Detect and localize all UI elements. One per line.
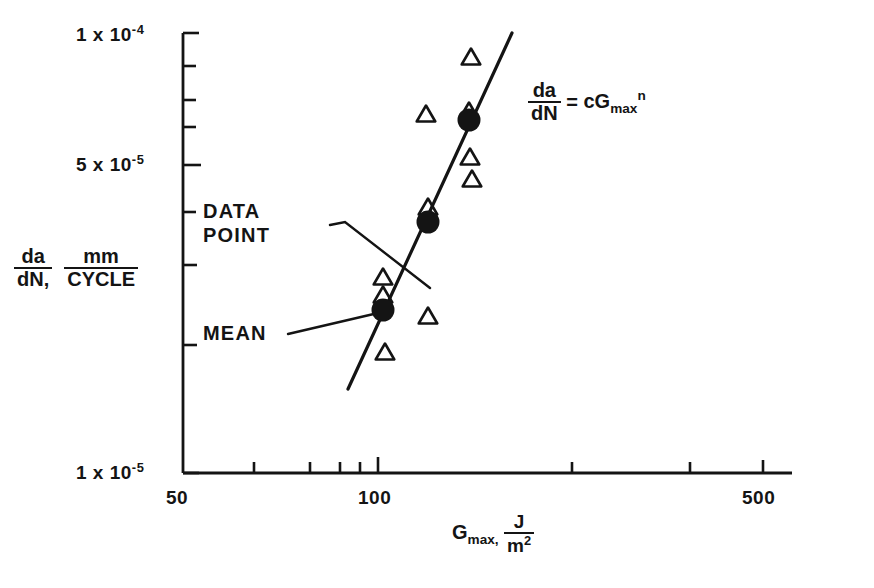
y-axis-ticks	[183, 33, 201, 473]
equation-lhs-den: dN	[528, 103, 561, 124]
y-tick-label-5e-5: 5 x 10-5	[76, 152, 144, 176]
data-point-triangle	[462, 49, 481, 65]
y-tick-mantissa: 1 x 10	[76, 462, 132, 483]
equation-lhs-num: da	[528, 80, 561, 103]
x-axis-title-unit-num: J	[504, 512, 534, 534]
y-tick-exponent: -5	[132, 460, 144, 475]
equation-rhs-coefficient: c	[583, 90, 594, 112]
y-axis-title-rate-den: dN,	[14, 269, 52, 290]
mean-circle	[458, 109, 481, 132]
power-law-equation: da dN = cGmaxn	[528, 80, 646, 124]
data-point-triangle	[417, 106, 436, 122]
y-tick-exponent: -5	[132, 152, 144, 167]
x-axis-title-unit-fraction: J m2	[504, 512, 534, 556]
x-axis-title-subscript: max,	[468, 532, 499, 547]
data-point-annotation-line1: DATA	[203, 199, 270, 223]
x-tick-label-100: 100	[358, 487, 391, 509]
x-axis-title-base: G	[452, 521, 468, 543]
y-tick-mantissa: 5 x 10	[76, 154, 132, 175]
x-axis-title-unit-den-base: m	[507, 535, 524, 556]
y-tick-mantissa: 1 x 10	[76, 24, 132, 45]
y-axis-title-unit-fraction: mm CYCLE	[64, 246, 138, 290]
mean-leader	[288, 313, 378, 334]
mean-circle	[372, 299, 395, 322]
y-axis-title-unit-den: CYCLE	[64, 269, 138, 290]
x-tick-label-50: 50	[166, 487, 188, 509]
data-point-triangle	[419, 308, 438, 324]
data-point-triangle	[461, 149, 480, 165]
equation-rhs-subscript: max	[610, 101, 637, 116]
data-point-annotation: DATA POINT	[203, 199, 270, 248]
data-point-annotation-line2: POINT	[203, 223, 270, 247]
x-axis-title-unit-den: m2	[504, 534, 534, 556]
y-axis-title-rate-num: da	[14, 246, 52, 269]
data-point-leader	[330, 222, 430, 288]
equation-equals: =	[566, 91, 578, 114]
y-tick-exponent: -4	[132, 22, 144, 37]
equation-lhs-fraction: da dN	[528, 80, 561, 124]
data-point-triangle	[374, 269, 393, 285]
data-point-triangle	[463, 171, 482, 187]
x-tick-label-500: 500	[742, 487, 775, 509]
mean-annotation: MEAN	[203, 322, 267, 345]
x-axis-ticks	[254, 457, 763, 473]
mean-circle	[417, 211, 440, 234]
data-point-triangle	[376, 344, 395, 360]
equation-rhs: cGmaxn	[583, 88, 645, 116]
axis-lines	[183, 33, 792, 473]
y-axis-title-unit-num: mm	[64, 246, 138, 269]
equation-rhs-base: G	[595, 90, 611, 112]
y-axis-title: da dN, mm CYCLE	[14, 246, 138, 290]
y-tick-label-1e-5: 1 x 10-5	[76, 460, 144, 484]
annotation-leaders	[288, 222, 430, 334]
x-axis-title: Gmax, J m2	[452, 512, 534, 556]
y-tick-label-1e-4: 1 x 10-4	[76, 22, 144, 46]
x-axis-title-unit-den-exponent: 2	[524, 533, 531, 548]
y-axis-title-rate-fraction: da dN,	[14, 246, 52, 290]
equation-rhs-exponent: n	[637, 88, 645, 103]
